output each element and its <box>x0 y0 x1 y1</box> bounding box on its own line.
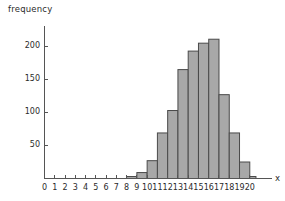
y-tick-label: 100 <box>10 107 40 116</box>
histogram-bar <box>168 111 178 179</box>
histogram-bar <box>178 70 188 179</box>
histogram-bar <box>209 39 219 178</box>
histogram-bar <box>157 133 167 179</box>
histogram-bar <box>240 162 250 179</box>
histogram-bar <box>147 161 157 179</box>
y-tick-label: 200 <box>10 41 40 50</box>
x-tick-label: 20 <box>242 183 258 192</box>
histogram-bar <box>198 43 208 178</box>
y-tick-label: 150 <box>10 74 40 83</box>
histogram-bar <box>219 95 229 179</box>
histogram-bar <box>229 133 239 179</box>
y-tick-label: 50 <box>10 140 40 149</box>
plot-canvas <box>0 0 285 201</box>
histogram-bar <box>137 173 147 179</box>
bar-series <box>127 39 256 178</box>
histogram-bar <box>188 51 198 178</box>
histogram-figure: frequency x 50100150200 0123456789101112… <box>0 0 285 201</box>
